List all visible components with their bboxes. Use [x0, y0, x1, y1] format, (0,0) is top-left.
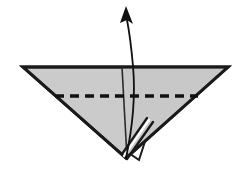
- origami-diagram: Origami fold step: inverted triangle wit…: [0, 0, 238, 170]
- origami-canvas: [0, 0, 238, 170]
